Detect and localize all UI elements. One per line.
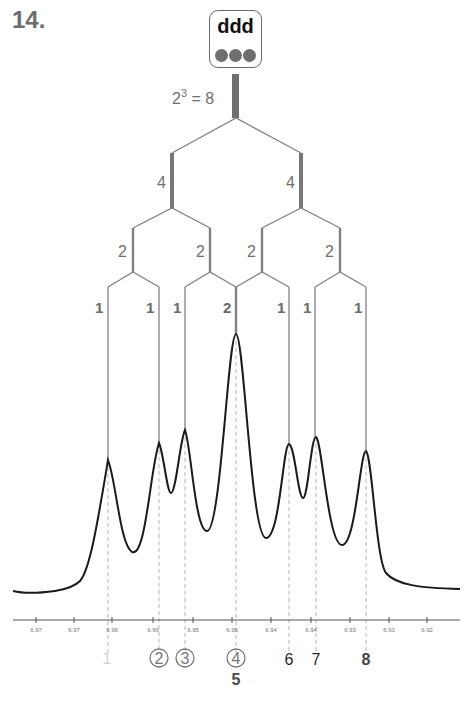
x-tick-label: 6.95 [226,627,238,633]
level1-intensity-right: 4 [286,174,295,191]
peak-label-4: 4 [232,650,241,667]
x-tick-label: 6.94 [305,627,317,633]
splitting-tree-and-spectrum: 23 = 8 4 4 2 2 2 2 1 1 1 2 1 1 1 [0,0,470,702]
peak-label-7: 7 [312,651,321,668]
level2-intensity: 2 [118,243,127,260]
peak-label-6: 6 [285,651,294,668]
x-tick-label: 6.95 [187,627,199,633]
level3-intensity: 2 [223,299,231,316]
x-tick-label: 6.92 [421,627,433,633]
level2-intensity: 2 [196,243,205,260]
x-tick-label: 6.94 [265,627,277,633]
root-intensity-bar [232,74,239,118]
nmr-multiplet-figure: 14. ddd [0,0,470,702]
peak-label-8: 8 [362,651,371,668]
level3-intensity: 1 [95,299,103,316]
level3-labels: 1 1 1 2 1 1 1 [95,299,362,316]
peak-label-2: 2 [155,650,164,667]
level3-intensity: 1 [277,299,285,316]
x-tick-label: 6.96 [106,627,118,633]
peak-label-3: 3 [181,650,190,667]
x-tick-label: 6.93 [383,627,395,633]
x-tick-label: 6.96 [147,627,159,633]
splitting-tree [108,74,366,460]
level3-intensity: 1 [146,299,154,316]
peak-label-5: 5 [232,671,241,688]
level2-intensity: 2 [247,243,256,260]
peak-guides [108,334,366,652]
x-tick-label: 6.97 [30,627,42,633]
x-tick-label: 6.97 [68,627,80,633]
total-lines-label: 23 = 8 [172,87,214,107]
level3-intensity: 1 [354,299,362,316]
peak-labels: 1 2 3 4 5 6 7 8 [103,649,371,688]
level3-intensity: 1 [303,299,311,316]
level1-intensity-left: 4 [157,174,166,191]
level2-intensity: 2 [325,243,334,260]
peak-label-1: 1 [103,650,112,667]
x-tick-label: 6.93 [344,627,356,633]
level3-intensity: 1 [173,299,181,316]
